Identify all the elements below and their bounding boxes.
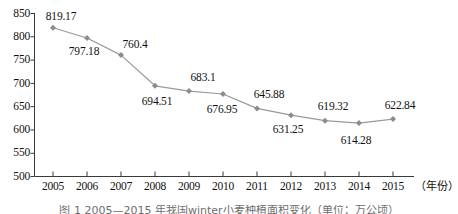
y-tick-label-550: 550: [0, 147, 30, 159]
y-tick-label-750: 750: [0, 54, 30, 66]
data-label-2008: 694.51: [142, 96, 172, 108]
data-point-2013: [322, 118, 328, 124]
data-point-2015: [390, 116, 396, 122]
data-point-2005: [50, 25, 56, 31]
y-tick-label-500: 500: [0, 171, 30, 183]
y-tick-label-650: 650: [0, 101, 30, 113]
x-axis-title: （年份）: [415, 181, 458, 192]
x-tick-label-2011: 2011: [240, 181, 274, 193]
figure-caption: 图 1 2005—2015 年我国winter小麦种植面积变化（单位：万公顷）: [0, 205, 458, 214]
y-tick-label-800: 800: [0, 31, 30, 43]
data-point-2012: [288, 112, 294, 118]
x-tick-label-2009: 2009: [172, 181, 206, 193]
data-point-2011: [254, 105, 260, 111]
data-label-2014: 614.28: [341, 135, 371, 147]
data-point-2010: [220, 91, 226, 97]
y-tick-label-700: 700: [0, 78, 30, 90]
data-point-2009: [186, 88, 192, 94]
x-tick-label-2012: 2012: [274, 181, 308, 193]
data-label-2012: 631.25: [273, 124, 303, 136]
x-tick-label-2008: 2008: [138, 181, 172, 193]
data-label-2009: 683.1: [191, 72, 216, 84]
x-tick-label-2015: 2015: [376, 181, 410, 193]
y-tick-label-850: 850: [0, 8, 30, 20]
y-tick-marks: [31, 14, 35, 177]
data-label-2011: 645.88: [254, 89, 284, 101]
x-tick-label-2010: 2010: [206, 181, 240, 193]
x-tick-marks: [53, 172, 393, 177]
data-label-2013: 619.32: [318, 101, 348, 113]
data-label-2006: 797.18: [69, 46, 99, 58]
figure-container: 850 800 750 700 650 600 550 500 2005 200…: [0, 0, 458, 214]
figure-caption-text: 图 1 2005—2015 年我国winter小麦种植面积变化（单位：万公顷）: [59, 205, 398, 214]
x-tick-label-2005: 2005: [36, 181, 70, 193]
y-tick-label-600: 600: [0, 124, 30, 136]
data-label-2007: 760.4: [123, 39, 148, 51]
x-tick-label-2013: 2013: [308, 181, 342, 193]
x-tick-label-2007: 2007: [104, 181, 138, 193]
data-point-2014: [356, 120, 362, 126]
data-point-2006: [84, 35, 90, 41]
data-label-2015: 622.84: [385, 100, 415, 112]
x-tick-label-2006: 2006: [70, 181, 104, 193]
x-tick-label-2014: 2014: [342, 181, 376, 193]
data-label-2010: 676.95: [207, 104, 237, 116]
data-label-2005: 819.17: [46, 11, 76, 23]
